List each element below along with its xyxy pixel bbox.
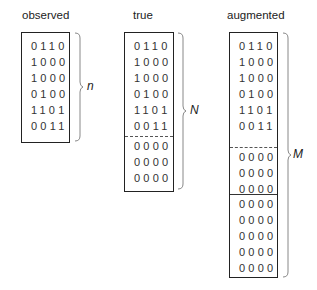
matrix-row: 1000 [125, 70, 173, 86]
matrix-row: 0000 [230, 196, 277, 212]
matrix-row: 0110 [125, 38, 173, 54]
curly-brace-icon [72, 32, 84, 142]
curly-brace-icon [175, 32, 187, 191]
panel-title-observed: observed [22, 9, 69, 21]
matrix-row: 0000 [125, 154, 173, 170]
dashed-divider [230, 147, 277, 148]
panel-title-true: true [133, 9, 153, 21]
matrix-row: 0110 [22, 38, 69, 54]
matrix-row: 0000 [230, 228, 277, 244]
matrix-row: 0011 [22, 118, 69, 134]
matrix-row: 1101 [22, 102, 69, 118]
matrix-row: 1000 [22, 54, 69, 70]
matrix-row: 0100 [230, 86, 277, 102]
matrix-row: 0000 [230, 244, 277, 260]
solid-divider [230, 194, 277, 195]
matrix-row: 0000 [125, 138, 173, 154]
matrix-row: 1000 [230, 54, 277, 70]
matrix-row: 0011 [125, 118, 173, 134]
brace-label-M: M [293, 147, 303, 161]
matrix-row: 0000 [230, 165, 277, 181]
matrix-observed: 0110 1000 1000 0100 1101 0011 [21, 32, 70, 143]
matrix-row: 0000 [230, 149, 277, 165]
curly-brace-icon [280, 32, 292, 280]
matrix-row: 0000 [125, 170, 173, 186]
brace-label-n: n [87, 79, 94, 93]
matrix-true: 0110 1000 1000 0100 1101 0011 0000 0000 … [124, 32, 174, 192]
dashed-divider [125, 136, 173, 137]
matrix-row: 0000 [230, 212, 277, 228]
matrix-row: 1000 [230, 70, 277, 86]
matrix-row: 0110 [230, 38, 277, 54]
matrix-row: 1101 [125, 102, 173, 118]
matrix-row: 0000 [230, 260, 277, 276]
matrix-row: 0011 [230, 118, 277, 134]
matrix-row: 0100 [125, 86, 173, 102]
matrix-row: 0100 [22, 86, 69, 102]
panel-title-augmented: augmented [227, 9, 285, 21]
matrix-row: 1101 [230, 102, 277, 118]
matrix-row: 1000 [22, 70, 69, 86]
matrix-augmented: 0110 1000 1000 0100 1101 0011 0000 0000 … [229, 32, 278, 278]
matrix-row: 1000 [125, 54, 173, 70]
brace-label-N: N [190, 103, 199, 117]
